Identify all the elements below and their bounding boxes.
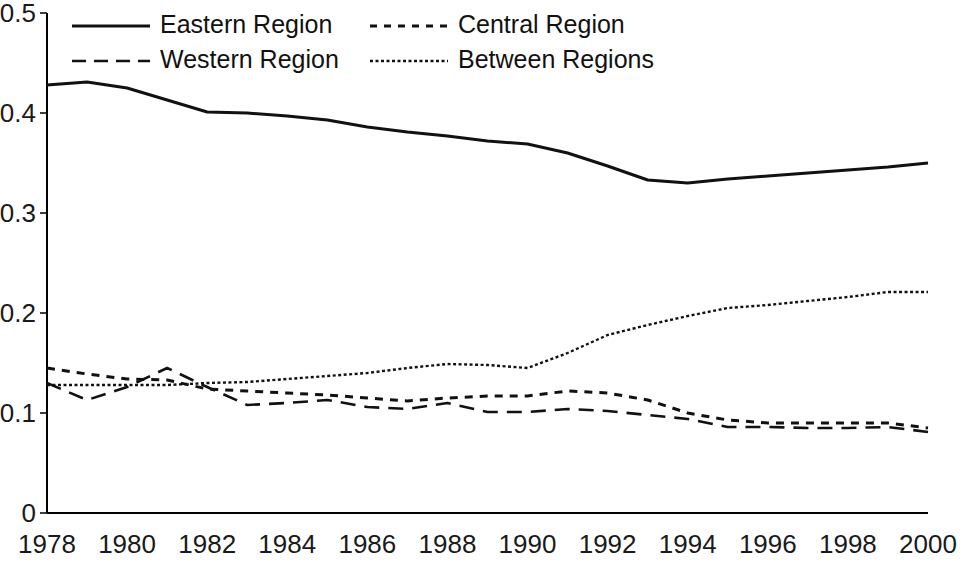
y-tick-label: 0.3: [0, 198, 36, 228]
x-axis-group: 1978198019821984198619881990199219941996…: [18, 513, 957, 559]
legend-label: Between Regions: [458, 45, 654, 73]
x-tick-label: 1998: [819, 529, 877, 559]
series-line-between-regions: [47, 292, 928, 385]
data-series-group: [47, 82, 928, 432]
x-tick-label: 1988: [419, 529, 477, 559]
y-tick-label: 0.4: [0, 98, 36, 128]
chart-legend: Eastern RegionCentral RegionWestern Regi…: [72, 10, 654, 73]
x-tick-label: 1980: [98, 529, 156, 559]
legend-label: Western Region: [160, 45, 339, 73]
y-tick-label: 0.1: [0, 398, 36, 428]
y-tick-marks: [40, 13, 47, 513]
y-tick-label: 0: [22, 498, 36, 528]
y-tick-labels: 00.10.20.30.40.5: [0, 0, 36, 528]
x-tick-label: 1994: [659, 529, 717, 559]
x-tick-label: 1982: [178, 529, 236, 559]
series-line-eastern-region: [47, 82, 928, 183]
x-tick-label: 1986: [338, 529, 396, 559]
x-tick-label: 2000: [899, 529, 957, 559]
y-axis-group: 00.10.20.30.40.5: [0, 0, 47, 528]
legend-label: Eastern Region: [160, 10, 332, 38]
x-tick-label: 1984: [258, 529, 316, 559]
x-tick-label: 1990: [499, 529, 557, 559]
series-line-central-region: [47, 368, 928, 428]
legend-label: Central Region: [458, 10, 625, 38]
x-tick-label: 1978: [18, 529, 76, 559]
y-tick-label: 0.5: [0, 0, 36, 28]
y-tick-label: 0.2: [0, 298, 36, 328]
chart-container: 00.10.20.30.40.5 19781980198219841986198…: [0, 0, 960, 562]
line-chart: 00.10.20.30.40.5 19781980198219841986198…: [0, 0, 960, 562]
x-tick-labels: 1978198019821984198619881990199219941996…: [18, 529, 957, 559]
x-tick-label: 1992: [579, 529, 637, 559]
x-tick-label: 1996: [739, 529, 797, 559]
